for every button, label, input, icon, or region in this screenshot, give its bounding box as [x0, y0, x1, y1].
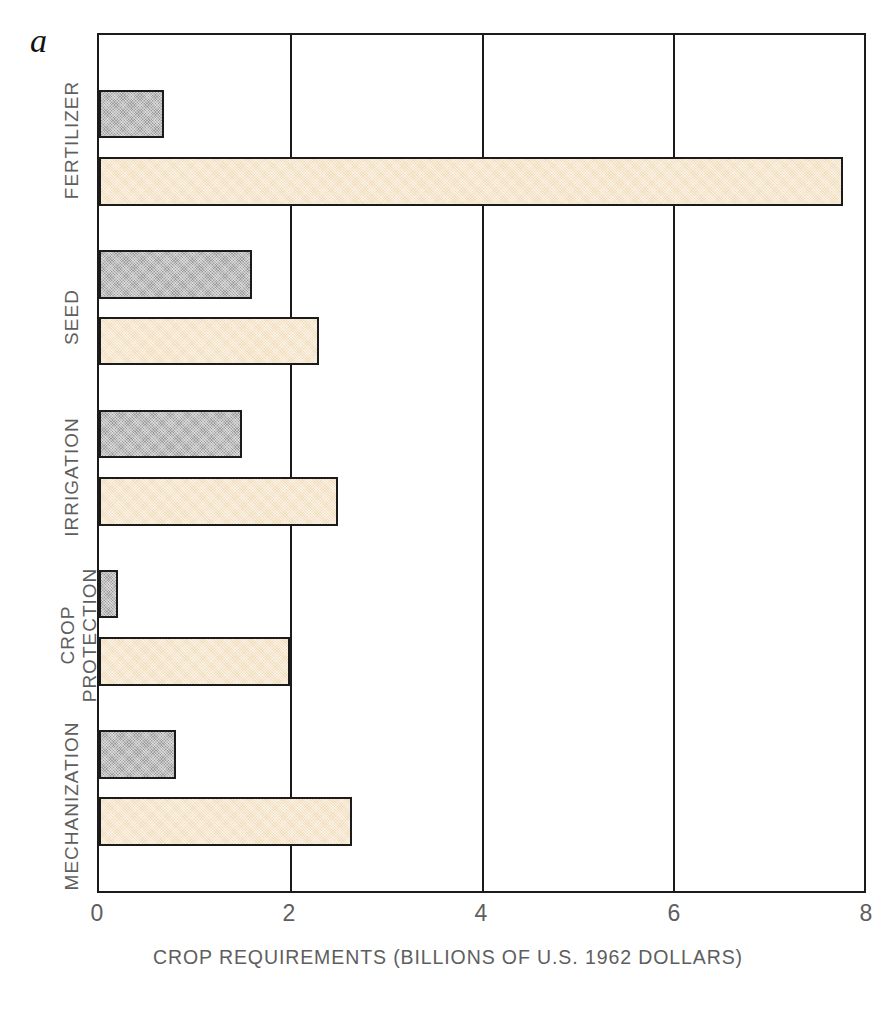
- xtick-label-6: 6: [644, 900, 704, 927]
- bar-seed-tan: [99, 317, 319, 365]
- chart-figure: a FERTILIZER SEED IRRIGATION CROP PROTEC…: [0, 0, 896, 1010]
- plot-area: [97, 33, 866, 893]
- bar-crop-protection-tan: [99, 637, 290, 686]
- xtick-label-8: 8: [836, 900, 896, 927]
- category-label-irrigation: IRRIGATION: [61, 387, 83, 567]
- category-label-seed: SEED: [61, 227, 83, 407]
- category-label-mechanization: MECHANIZATION: [61, 716, 83, 896]
- bar-mechanization-tan: [99, 797, 352, 846]
- category-label-crop-protection-line1: CROP: [57, 545, 79, 725]
- xtick-label-0: 0: [67, 900, 127, 927]
- category-label-crop-protection-line2: PROTECTION: [79, 545, 101, 725]
- bar-seed-gray: [99, 250, 252, 299]
- bar-crop-protection-gray: [99, 570, 118, 618]
- bar-fertilizer-tan: [99, 157, 843, 206]
- bar-fertilizer-gray: [99, 90, 164, 138]
- category-label-fertilizer: FERTILIZER: [61, 50, 83, 230]
- panel-letter: a: [30, 24, 47, 58]
- bar-mechanization-gray: [99, 730, 176, 779]
- bar-irrigation-tan: [99, 477, 338, 526]
- x-axis-title: CROP REQUIREMENTS (BILLIONS OF U.S. 1962…: [0, 946, 896, 969]
- xtick-label-4: 4: [451, 900, 511, 927]
- xtick-label-2: 2: [259, 900, 319, 927]
- bar-irrigation-gray: [99, 410, 242, 458]
